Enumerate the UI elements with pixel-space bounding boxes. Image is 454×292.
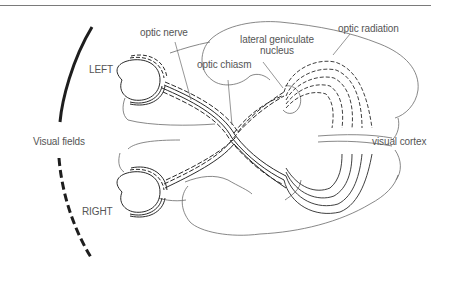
lateral-geniculate-label: lateral geniculate nucleus (227, 34, 327, 56)
right-eye-label: RIGHT (82, 206, 113, 217)
left-eye (117, 55, 167, 105)
optic-nerve-label: optic nerve (140, 27, 188, 38)
optic-chiasm-label: optic chiasm (197, 59, 251, 70)
lateral-geniculate-line2: nucleus (227, 45, 327, 56)
right-eye (117, 167, 167, 217)
optic-radiation-lower (284, 154, 372, 213)
optic-tracts (162, 82, 286, 188)
left-eye-label: LEFT (89, 64, 113, 75)
lateral-geniculate-line1: lateral geniculate (227, 34, 327, 45)
visual-fields-label: Visual fields (33, 136, 85, 147)
optic-radiation-upper (284, 61, 372, 128)
optic-radiation-label: optic radiation (338, 23, 399, 34)
visual-cortex-label: visual cortex (372, 136, 426, 147)
